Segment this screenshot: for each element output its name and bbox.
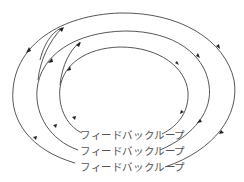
- middle-loop-label: フィードバックループ: [80, 143, 185, 158]
- inner-loop: [60, 47, 188, 134]
- arrow-icons: [26, 27, 224, 140]
- outer-loop-label: フィードバックループ: [80, 159, 185, 174]
- inner-loop-label: フィードバックループ: [80, 127, 185, 142]
